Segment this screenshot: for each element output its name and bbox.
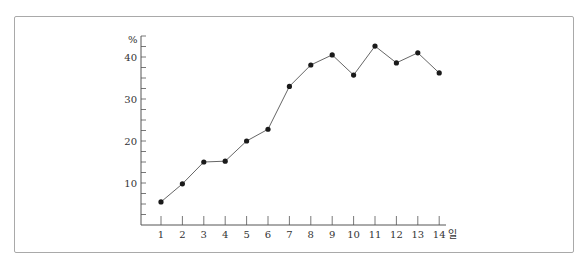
x-tick-label: 11 <box>369 229 382 240</box>
y-tick-label: 40 <box>124 52 137 63</box>
x-tick-label: 1 <box>158 229 164 240</box>
data-point-marker <box>180 181 185 186</box>
x-tick-label: 5 <box>243 229 249 240</box>
x-tick-label: 12 <box>390 229 403 240</box>
data-point-marker <box>351 72 356 77</box>
data-point-marker <box>158 199 163 204</box>
line-chart: 102030401234567891011121314 % 일 <box>0 0 588 267</box>
x-tick-label: 6 <box>265 229 271 240</box>
data-series <box>158 43 441 204</box>
data-point-marker <box>330 52 335 57</box>
y-tick-label: 10 <box>124 178 137 189</box>
data-point-marker <box>415 50 420 55</box>
x-tick-label: 2 <box>179 229 185 240</box>
x-tick-label: 7 <box>286 229 292 240</box>
x-tick-label: 4 <box>222 229 228 240</box>
data-point-marker <box>308 62 313 67</box>
data-point-marker <box>372 43 377 48</box>
data-point-marker <box>287 84 292 89</box>
data-point-marker <box>437 70 442 75</box>
axes: 102030401234567891011121314 <box>124 36 446 240</box>
x-tick-label: 14 <box>433 229 446 240</box>
x-tick-label: 8 <box>308 229 314 240</box>
y-tick-label: 20 <box>124 136 137 147</box>
data-point-marker <box>265 127 270 132</box>
data-point-marker <box>201 159 206 164</box>
data-point-marker <box>394 60 399 65</box>
x-axis-unit-label: 일 <box>448 229 457 240</box>
x-tick-label: 9 <box>329 229 335 240</box>
data-point-marker <box>244 138 249 143</box>
x-tick-label: 3 <box>201 229 207 240</box>
y-axis-unit-label: % <box>128 34 138 45</box>
x-tick-label: 13 <box>411 229 424 240</box>
x-tick-label: 10 <box>347 229 360 240</box>
series-line <box>161 46 439 202</box>
data-point-marker <box>223 159 228 164</box>
y-tick-label: 30 <box>124 94 137 105</box>
